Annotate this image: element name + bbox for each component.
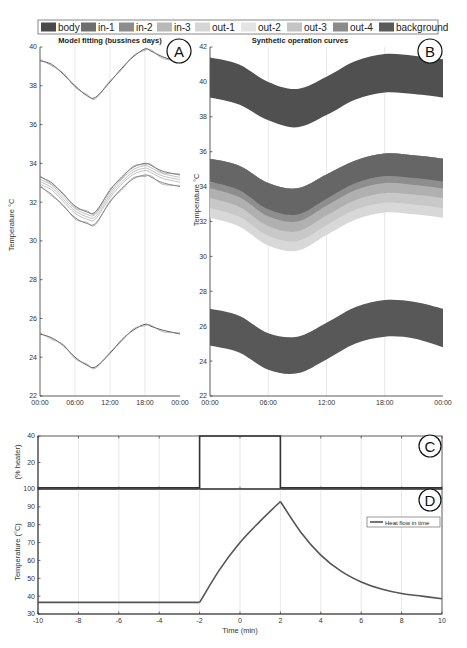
svg-text:24: 24 bbox=[29, 354, 37, 361]
svg-text:90: 90 bbox=[27, 503, 35, 510]
svg-text:B: B bbox=[425, 43, 435, 60]
svg-text:20: 20 bbox=[27, 459, 35, 466]
panel-b-ylabel: Temperature °C bbox=[192, 173, 201, 226]
panel-d-xlabel: Time (min) bbox=[222, 626, 258, 635]
svg-text:60: 60 bbox=[27, 557, 35, 564]
svg-text:40: 40 bbox=[29, 43, 37, 50]
badge-c: C bbox=[419, 435, 441, 457]
svg-text:32: 32 bbox=[29, 199, 37, 206]
svg-text:28: 28 bbox=[29, 276, 37, 283]
svg-text:28: 28 bbox=[199, 288, 207, 295]
svg-text:0: 0 bbox=[238, 617, 242, 624]
svg-text:out-1: out-1 bbox=[212, 22, 235, 33]
svg-text:40: 40 bbox=[27, 432, 35, 439]
svg-text:00:00: 00:00 bbox=[31, 399, 49, 406]
svg-text:40: 40 bbox=[27, 593, 35, 600]
badge-a: A bbox=[167, 39, 191, 63]
svg-text:-8: -8 bbox=[75, 617, 81, 624]
svg-text:4: 4 bbox=[319, 617, 323, 624]
legend-item-in-2: in-2 bbox=[119, 22, 153, 33]
svg-text:10: 10 bbox=[438, 617, 446, 624]
svg-text:-4: -4 bbox=[156, 617, 162, 624]
svg-text:26: 26 bbox=[29, 315, 37, 322]
badge-d: D bbox=[419, 489, 441, 511]
svg-text:38: 38 bbox=[199, 113, 207, 120]
svg-text:26: 26 bbox=[199, 323, 207, 330]
panel-d: 30405060708090100-10-8-6-4-20246810 Temp… bbox=[13, 485, 446, 635]
legend-item-out-3: out-3 bbox=[287, 22, 327, 33]
svg-text:12:00: 12:00 bbox=[101, 399, 119, 406]
svg-text:in-1: in-1 bbox=[98, 22, 115, 33]
svg-text:38: 38 bbox=[29, 82, 37, 89]
legend-item-body: body bbox=[41, 22, 80, 33]
legend-item-in-3: in-3 bbox=[157, 22, 191, 33]
svg-text:70: 70 bbox=[27, 539, 35, 546]
svg-text:12:00: 12:00 bbox=[318, 399, 336, 406]
svg-text:80: 80 bbox=[27, 521, 35, 528]
svg-text:-10: -10 bbox=[33, 617, 43, 624]
svg-text:42: 42 bbox=[199, 43, 207, 50]
svg-text:36: 36 bbox=[29, 121, 37, 128]
svg-text:Temperature °C: Temperature °C bbox=[7, 198, 16, 251]
panel-d-legend: Heat flow in time bbox=[367, 517, 440, 527]
svg-text:2: 2 bbox=[278, 617, 282, 624]
svg-text:00:00: 00:00 bbox=[171, 399, 189, 406]
svg-text:36: 36 bbox=[199, 148, 207, 155]
svg-text:-2: -2 bbox=[196, 617, 202, 624]
svg-text:06:00: 06:00 bbox=[66, 399, 84, 406]
svg-text:out-4: out-4 bbox=[350, 22, 373, 33]
panel-c: 2040 (% heater) C bbox=[13, 432, 442, 489]
svg-text:Heat flow in time: Heat flow in time bbox=[385, 520, 430, 526]
svg-text:8: 8 bbox=[400, 617, 404, 624]
svg-text:18:00: 18:00 bbox=[136, 399, 154, 406]
svg-text:D: D bbox=[425, 492, 436, 509]
svg-text:40: 40 bbox=[199, 78, 207, 85]
panel-c-ylabel: (% heater) bbox=[13, 444, 22, 480]
svg-text:C: C bbox=[425, 438, 436, 455]
svg-text:18:00: 18:00 bbox=[376, 399, 394, 406]
panel-a-title: Model fitting (bussines days) bbox=[58, 36, 162, 45]
svg-text:00:00: 00:00 bbox=[434, 399, 452, 406]
svg-text:A: A bbox=[174, 43, 184, 60]
svg-text:-6: -6 bbox=[116, 617, 122, 624]
svg-text:out-3: out-3 bbox=[304, 22, 327, 33]
badge-b: B bbox=[418, 39, 442, 63]
figure: bodyin-1in-2in-3out-1out-2out-3out-4back… bbox=[0, 0, 467, 648]
legend-item-out-4: out-4 bbox=[333, 22, 373, 33]
panel-d-ylabel: Temperature (°C) bbox=[13, 523, 22, 581]
svg-text:body: body bbox=[58, 22, 80, 33]
svg-text:30: 30 bbox=[199, 253, 207, 260]
legend: bodyin-1in-2in-3out-1out-2out-3out-4back… bbox=[38, 20, 448, 34]
panel-b-title: Synthetic operation curves bbox=[252, 36, 348, 45]
svg-text:34: 34 bbox=[29, 160, 37, 167]
svg-text:background: background bbox=[396, 22, 448, 33]
panel-b: Synthetic operation curves 2224262830323… bbox=[192, 36, 452, 406]
svg-text:06:00: 06:00 bbox=[259, 399, 277, 406]
legend-item-out-1: out-1 bbox=[195, 22, 235, 33]
svg-text:00:00: 00:00 bbox=[201, 399, 219, 406]
legend-item-background: background bbox=[379, 22, 448, 33]
legend-item-in-1: in-1 bbox=[81, 22, 115, 33]
svg-text:out-2: out-2 bbox=[258, 22, 281, 33]
svg-text:in-2: in-2 bbox=[136, 22, 153, 33]
legend-item-out-2: out-2 bbox=[241, 22, 281, 33]
svg-text:50: 50 bbox=[27, 575, 35, 582]
svg-text:100: 100 bbox=[23, 485, 35, 492]
svg-text:in-3: in-3 bbox=[174, 22, 191, 33]
svg-text:30: 30 bbox=[29, 237, 37, 244]
svg-text:24: 24 bbox=[199, 358, 207, 365]
svg-text:6: 6 bbox=[359, 617, 363, 624]
panel-a: Model fitting (bussines days) 2224262830… bbox=[7, 36, 191, 406]
